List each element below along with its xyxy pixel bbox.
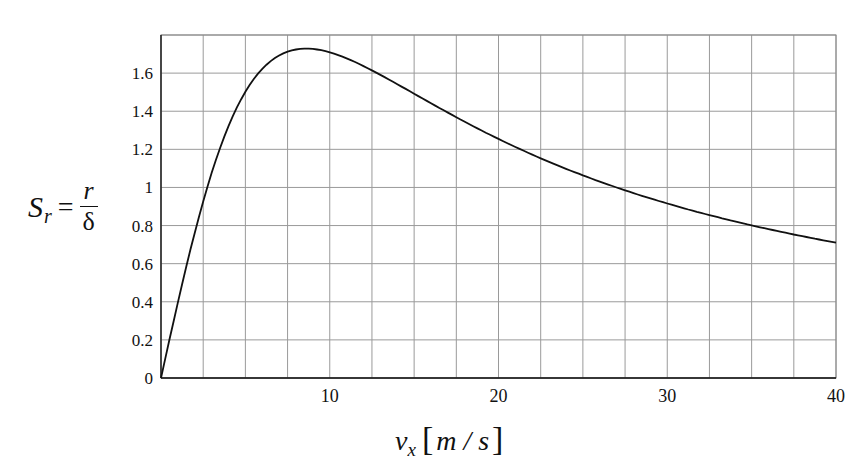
x-label-open-bracket: [: [422, 420, 433, 458]
y-label-sub: r: [44, 205, 52, 228]
svg-text:1.2: 1.2: [132, 140, 153, 159]
x-label-main: v: [395, 425, 407, 457]
svg-text:0.8: 0.8: [132, 217, 153, 236]
svg-text:0.2: 0.2: [132, 331, 153, 350]
svg-text:40: 40: [827, 386, 845, 406]
y-label-numerator: r: [80, 178, 98, 207]
svg-text:1.4: 1.4: [132, 102, 154, 121]
y-label-fraction: r δ: [80, 178, 98, 235]
y-label-main: S: [28, 190, 43, 224]
x-label-close-bracket: ]: [492, 420, 503, 458]
svg-text:1: 1: [145, 178, 154, 197]
grid-lines: [161, 35, 836, 378]
svg-text:0: 0: [145, 369, 154, 388]
y-label-denominator: δ: [83, 207, 95, 235]
x-label-sub: x: [407, 439, 415, 461]
y-axis-label: Sr = r δ: [28, 178, 98, 235]
svg-text:30: 30: [658, 386, 676, 406]
svg-text:0.4: 0.4: [132, 293, 154, 312]
svg-text:0.6: 0.6: [132, 255, 153, 274]
svg-text:20: 20: [490, 386, 508, 406]
svg-text:10: 10: [321, 386, 339, 406]
x-label-unit: m / s: [436, 425, 489, 457]
y-label-equals: =: [58, 191, 74, 223]
tick-labels: 00.20.40.60.811.21.41.610203040: [132, 64, 845, 406]
chart-plot: 00.20.40.60.811.21.41.610203040: [0, 0, 861, 473]
svg-text:1.6: 1.6: [132, 64, 153, 83]
x-axis-label: vx [ m / s ]: [395, 420, 503, 458]
